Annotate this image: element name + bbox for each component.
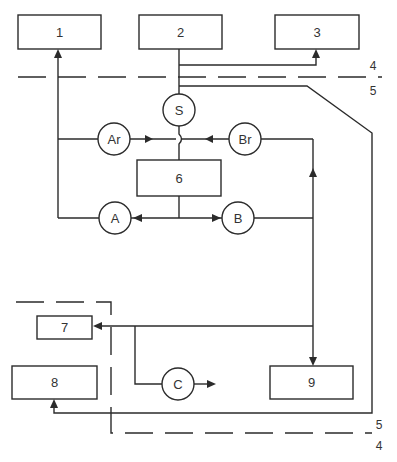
arrowhead-into-1 [54, 49, 62, 58]
arrowhead-into-b [212, 214, 221, 222]
node-br: Br [229, 123, 261, 155]
arrowhead-into-7 [93, 322, 102, 330]
box-3-label: 3 [313, 25, 320, 40]
node-a-label: A [111, 211, 120, 226]
box-9: 9 [270, 366, 353, 399]
box-9-label: 9 [308, 375, 315, 390]
box-6: 6 [137, 160, 221, 196]
box-8-label: 8 [51, 375, 58, 390]
node-ar: Ar [98, 123, 130, 155]
arrowhead-up-to-br [309, 168, 317, 177]
boundary-label-5-top: 5 [370, 84, 377, 98]
node-br-label: Br [239, 132, 253, 147]
box-3: 3 [275, 15, 359, 49]
node-b-label: B [234, 211, 243, 226]
node-s: S [163, 94, 195, 126]
box-2-label: 2 [177, 25, 184, 40]
arrowhead-c-out [207, 380, 216, 388]
arrowhead-br-left [205, 135, 213, 143]
node-a: A [99, 202, 131, 234]
box-6-label: 6 [175, 171, 182, 186]
wire-to-c [135, 326, 162, 384]
arrowhead-into-a [133, 214, 142, 222]
box-2: 2 [139, 15, 222, 49]
box-8: 8 [12, 366, 97, 399]
block-diagram: 4 5 5 4 1 2 3 [0, 0, 397, 462]
node-b: B [222, 202, 254, 234]
node-c: C [162, 368, 194, 400]
boundary-label-4-bottom: 4 [376, 439, 383, 453]
wire-s-to-6 [179, 126, 182, 160]
boundary-label-4-top: 4 [370, 59, 377, 73]
box-7-label: 7 [61, 320, 68, 335]
boundary-label-5-bottom: 5 [376, 418, 383, 432]
wire-2-to-3 [179, 56, 316, 65]
node-ar-label: Ar [108, 132, 122, 147]
arrowhead-into-8 [50, 399, 58, 408]
box-1: 1 [18, 15, 101, 49]
arrowhead-into-3 [312, 49, 320, 58]
box-7: 7 [37, 316, 92, 339]
box-1-label: 1 [56, 25, 63, 40]
arrowhead-into-9 [309, 357, 317, 366]
node-c-label: C [173, 377, 182, 392]
arrowhead-ar-right [145, 135, 153, 143]
node-s-label: S [175, 103, 184, 118]
